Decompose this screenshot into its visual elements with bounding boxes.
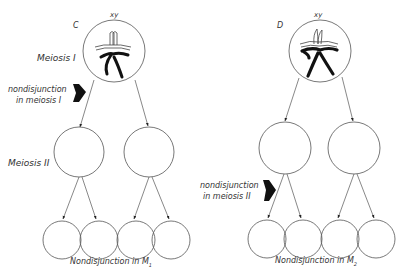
- panel-letter-d: D: [277, 22, 283, 30]
- chromosome-x-black-d: [302, 49, 337, 77]
- gamete-d-1: [248, 220, 286, 258]
- nondisjunction-d-line1: nondisjunction: [200, 182, 259, 190]
- genotype-label-d: xy: [314, 12, 322, 19]
- block-arrow-c-icon: [73, 84, 86, 102]
- chromosome-x-black-c: [101, 53, 128, 77]
- nondisjunction-diagram: C xy Meiosis I nondisjunction in meiosis…: [0, 0, 397, 268]
- gamete-c-2: [80, 221, 118, 259]
- caption-d-subscript: 2: [354, 261, 357, 267]
- gamete-c-3: [117, 221, 155, 259]
- gamete-c-1: [43, 221, 81, 259]
- block-arrow-d-icon: [263, 180, 276, 201]
- chromosome-y-outline-c: [95, 32, 131, 51]
- meiosis-i-label: Meiosis I: [37, 54, 76, 63]
- caption-c-subscript: 1: [149, 262, 152, 268]
- panel-d: [248, 20, 395, 258]
- gamete-c-4: [152, 221, 190, 259]
- caption-d: Nondisjunction in M2: [275, 257, 357, 267]
- gamete-d-3: [321, 220, 359, 258]
- genotype-label-c: xy: [110, 12, 118, 19]
- cell-c-secondary-2: [124, 127, 174, 177]
- nondisjunction-d-line2: in meiosis II: [203, 193, 251, 201]
- diagram-graphics: [0, 0, 397, 268]
- cell-d-secondary-2: [328, 122, 380, 174]
- gamete-d-2: [284, 220, 322, 258]
- cell-c-primary: [83, 20, 145, 82]
- nondisjunction-c-line2: in meiosis I: [16, 97, 61, 105]
- cell-c-secondary-1: [54, 127, 104, 177]
- meiosis-ii-label: Meiosis II: [8, 159, 49, 168]
- panel-letter-c: C: [73, 22, 79, 30]
- gamete-d-4: [357, 220, 395, 258]
- caption-c: Nondisjunction in M1: [70, 258, 152, 268]
- chromosome-y-outline-d: [300, 29, 338, 47]
- nondisjunction-c-line1: nondisjunction: [8, 86, 67, 94]
- cell-d-secondary-1: [259, 122, 311, 174]
